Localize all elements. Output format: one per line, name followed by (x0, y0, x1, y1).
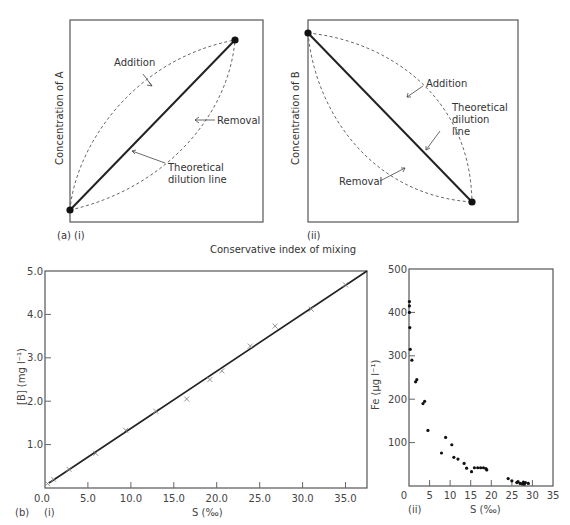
fe-data-point (473, 466, 476, 469)
shared-x-axis-label: Conservative index of mixing (210, 244, 356, 255)
x-tick-label: 15 (464, 490, 477, 501)
x-tick-label: 10.0 (120, 493, 142, 504)
endpoint-marker (66, 206, 73, 213)
annotation-dilution-line-2: dilution (452, 114, 489, 125)
x-tick-label: 20 (485, 490, 498, 501)
fe-data-point (527, 482, 530, 485)
x-axis-label: S (‰) (470, 504, 501, 515)
y-tick-label: 200 (388, 394, 407, 405)
chart-a-i: Addition Removal Theoretical dilution li… (54, 20, 263, 241)
y-tick-label: 500 (388, 264, 407, 275)
x-tick-label: 35.0 (334, 493, 356, 504)
x-tick-label: 30.0 (291, 493, 313, 504)
fe-data-point (423, 400, 426, 403)
fe-data-point (444, 436, 447, 439)
panel-label-b-ii: (ii) (408, 504, 421, 515)
y-axis-label: Fe (µg l⁻¹) (370, 360, 381, 410)
x-tick-label: 10 (444, 490, 457, 501)
y-tick-label: 3.0 (27, 352, 43, 363)
fe-data-point (485, 468, 488, 471)
dilution-arrow (132, 151, 165, 163)
annotation-removal: Removal (217, 115, 260, 126)
endpoint-marker (468, 198, 475, 205)
panel-label-a-i: (a) (i) (57, 230, 85, 241)
x-tick-label: 20.0 (206, 493, 228, 504)
fe-data-point (408, 326, 411, 329)
figure-canvas: Addition Removal Theoretical dilution li… (0, 0, 570, 525)
fe-data-point (507, 477, 510, 480)
x-axis-label: S (‰) (192, 507, 223, 518)
fe-data-point (476, 466, 479, 469)
annotation-dilution-line-3: line (452, 126, 470, 137)
fe-data-point (510, 479, 513, 482)
fe-data-point (463, 462, 466, 465)
arrow-head (147, 82, 152, 86)
annotation-dilution-line-2: dilution line (168, 174, 227, 185)
fe-data-point (465, 467, 468, 470)
fe-data-point (408, 304, 411, 307)
fe-data-point (409, 348, 412, 351)
y-tick-label: 100 (388, 437, 407, 448)
x-tick-label: 15.0 (163, 493, 185, 504)
fe-data-point (479, 466, 482, 469)
y-tick-label: 4.0 (27, 309, 43, 320)
y-tick-label: 2.0 (27, 396, 43, 407)
fe-data-point (426, 429, 429, 432)
chart-b-ii-frame (409, 269, 553, 486)
y-tick-label: 1.0 (27, 439, 43, 450)
fe-data-point (410, 359, 413, 362)
x-tick-label: 25 (506, 490, 519, 501)
chart-a-ii: Addition Theoretical dilution line Remov… (290, 20, 518, 241)
panel-label-a-ii: (ii) (307, 230, 320, 241)
x-tick-label: 5.0 (80, 493, 96, 504)
annotation-addition: Addition (426, 78, 467, 89)
fe-data-point (452, 456, 455, 459)
dilution-arrow (426, 131, 440, 150)
endpoint-marker (231, 36, 238, 43)
arrow-head (426, 146, 430, 150)
annotation-addition: Addition (114, 57, 155, 68)
fe-data-point (456, 457, 459, 460)
chart-b-ii: 100 200 300 400 500 0 5 10 15 20 25 30 3… (370, 264, 559, 515)
fe-data-point (470, 470, 473, 473)
y-axis-label: Concentration of B (290, 71, 301, 165)
fe-data-point (524, 481, 527, 484)
x-tick-label: 35 (547, 490, 560, 501)
x-tick-label: 25.0 (249, 493, 271, 504)
panel-label-b-i: (i) (44, 507, 55, 518)
x-tick-label: 0 (401, 490, 407, 501)
endpoint-marker (304, 29, 311, 36)
data-points (408, 300, 530, 486)
annotation-dilution-line-1: Theoretical (167, 162, 224, 173)
removal-arrow (380, 168, 405, 181)
x-tick-label: 5 (426, 490, 432, 501)
addition-arrow (407, 86, 423, 97)
fe-data-point (450, 443, 453, 446)
fe-data-point (415, 378, 418, 381)
chart-b-i: 1.0 2.0 3.0 4.0 5.0 0.0 5.0 10.0 15.0 20… (15, 266, 367, 518)
fe-data-point (440, 451, 443, 454)
fe-data-point (408, 311, 411, 314)
y-tick-label: 5.0 (27, 266, 43, 277)
y-tick-label: 300 (388, 350, 407, 361)
y-axis-label: Concentration of A (54, 71, 65, 165)
theoretical-dilution-line (308, 33, 472, 202)
annotation-dilution-line-1: Theoretical (451, 102, 508, 113)
annotation-removal: Removal (339, 176, 382, 187)
fe-data-point (408, 300, 411, 303)
x-tick-label: 30 (526, 490, 539, 501)
y-axis-label: [B] (mg l⁻¹) (16, 348, 27, 405)
y-tick-label: 400 (388, 307, 407, 318)
x-tick-label: 0.0 (34, 493, 50, 504)
panel-label-b: (b) (15, 507, 29, 518)
